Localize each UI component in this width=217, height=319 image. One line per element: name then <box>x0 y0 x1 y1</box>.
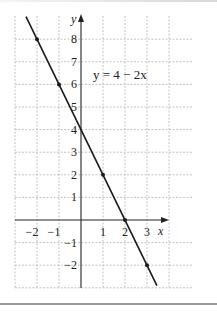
y-axis-arrow-icon <box>78 14 84 22</box>
data-point <box>145 263 149 267</box>
line-series <box>26 17 157 286</box>
x-axis-label: x <box>157 224 164 238</box>
bottom-rule <box>0 303 217 305</box>
x-tick-label: 3 <box>144 225 150 239</box>
function-line <box>26 17 157 286</box>
equation-label: y = 4 − 2x <box>93 67 147 82</box>
data-point <box>57 82 61 86</box>
y-tick-label: 6 <box>71 77 77 91</box>
x-tick-label: 1 <box>100 225 106 239</box>
grid <box>15 16 192 288</box>
y-tick-label: 1 <box>71 190 77 204</box>
y-tick-label: 2 <box>71 168 77 182</box>
data-point <box>35 37 39 41</box>
y-tick-label: 7 <box>71 55 77 69</box>
graph: −2−1123−2−112345678 y = 4 − 2x x y <box>0 0 217 319</box>
x-tick-label: 2 <box>122 225 128 239</box>
y-tick-label: −2 <box>64 258 77 272</box>
y-axis-label: y <box>70 12 77 26</box>
data-point <box>101 173 105 177</box>
x-tick-label: −2 <box>26 225 39 239</box>
x-axis-arrow-icon <box>161 217 169 223</box>
y-tick-label: 3 <box>71 145 77 159</box>
y-tick-label: 4 <box>71 123 77 137</box>
y-tick-label: 8 <box>71 32 77 46</box>
data-point <box>123 218 127 222</box>
x-tick-label: −1 <box>48 225 61 239</box>
y-tick-label: −1 <box>64 236 77 250</box>
